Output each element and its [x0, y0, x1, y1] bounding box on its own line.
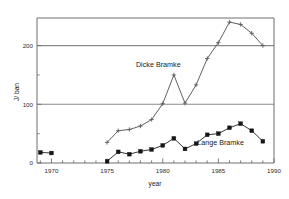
series-label-lange-bramke: Lange Bramke: [197, 138, 244, 147]
data-point-lange-bramke-1975: [105, 159, 109, 163]
data-point-lange-bramke-1989: [261, 139, 265, 143]
data-point-lange-bramke-1982: [183, 147, 187, 151]
data-point-lange-bramke-1985: [216, 132, 220, 136]
y-tick-label-200: 200: [23, 42, 34, 49]
data-point-lange-bramke-1987: [239, 122, 243, 126]
data-point-lange-bramke-1984: [205, 133, 209, 137]
data-point-lange-bramke-1979: [150, 148, 154, 152]
y-tick-label-0: 0: [30, 159, 34, 166]
x-tick-label-1990: 1990: [267, 167, 281, 174]
data-point-lange-bramke-1969: [38, 151, 42, 155]
data-point-lange-bramke-1988: [250, 129, 254, 133]
data-point-lange-bramke-1986: [228, 126, 232, 130]
data-point-lange-bramke-1980: [161, 143, 165, 147]
data-point-lange-bramke-1978: [139, 149, 143, 153]
data-point-lange-bramke-1977: [127, 152, 131, 156]
x-tick-label-1970: 1970: [45, 167, 59, 174]
data-point-lange-bramke-1981: [172, 136, 176, 140]
series-label-dicke-bramke: Dicke Bramke: [136, 60, 181, 69]
chart-background: [0, 0, 289, 199]
y-axis-title: J/ ban: [13, 83, 20, 101]
x-tick-label-1980: 1980: [156, 167, 170, 174]
line-chart: 19701975198019851990 0100200 year J/ ban…: [0, 0, 289, 199]
x-axis-title: year: [149, 180, 163, 188]
x-tick-label-1985: 1985: [211, 167, 225, 174]
y-tick-label-100: 100: [23, 101, 34, 108]
x-tick-label-1975: 1975: [100, 167, 114, 174]
data-point-lange-bramke-1970: [50, 151, 54, 155]
chart-figure: 19701975198019851990 0100200 year J/ ban…: [0, 0, 289, 199]
data-point-lange-bramke-1976: [116, 150, 120, 154]
